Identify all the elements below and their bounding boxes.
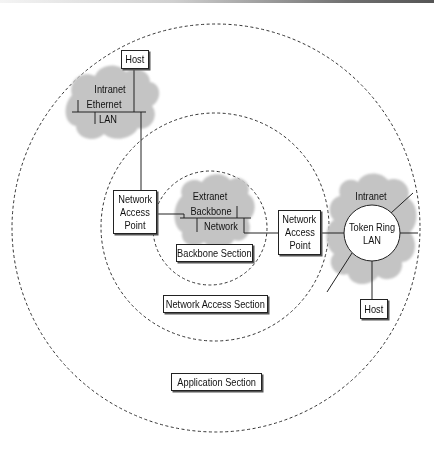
backbone-section-label: Backbone Section: [177, 247, 251, 260]
network-access-section-label: Network Access Section: [166, 298, 265, 311]
right-host-box: Host: [360, 299, 388, 319]
right-host-label: Host: [364, 303, 383, 316]
network-access-section-label-box: Network Access Section: [163, 295, 268, 313]
left-nap-line1: Network: [118, 193, 152, 206]
left-nap-line2: Access: [120, 206, 150, 219]
right-nap-line2: Access: [285, 226, 315, 239]
backbone-section-label-box: Backbone Section: [176, 244, 253, 262]
lan-label: LAN: [97, 113, 120, 126]
right-nap-line3: Point: [289, 239, 310, 252]
token-ring-label: Token Ring: [347, 221, 396, 234]
right-cloud-label: Intranet: [349, 190, 393, 203]
left-nap-line3: Point: [124, 219, 145, 232]
application-section-label-box: Application Section: [171, 373, 262, 391]
left-network-access-point: Network Access Point: [113, 190, 157, 234]
left-host-label: Host: [125, 53, 144, 66]
right-nap-line1: Network: [283, 213, 317, 226]
left-host-box: Host: [121, 50, 149, 69]
extranet-label: Extranet: [187, 190, 233, 203]
ethernet-label: Ethernet: [81, 98, 127, 111]
backbone-label: Backbone: [187, 205, 235, 218]
left-cloud-label: Intranet: [88, 83, 132, 96]
network-label: Network: [201, 220, 241, 233]
application-section-label: Application Section: [177, 376, 256, 389]
right-network-access-point: Network Access Point: [278, 210, 321, 255]
token-ring-lan-label: LAN: [360, 234, 385, 247]
